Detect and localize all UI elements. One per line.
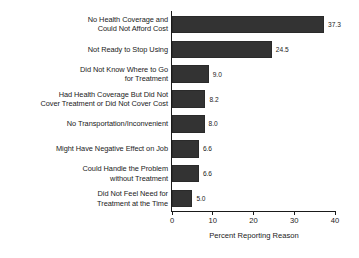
- x-tick-label: 20: [249, 216, 257, 225]
- bar-value-label: 24.5: [276, 46, 289, 53]
- bar-value-label: 6.6: [203, 145, 212, 152]
- x-tick-label: 30: [290, 216, 298, 225]
- x-tick: [212, 211, 213, 215]
- category-label: No Health Coverage and Could Not Afford …: [0, 15, 168, 33]
- bar: [172, 115, 205, 132]
- bar-value-label: 37.3: [328, 21, 341, 28]
- x-tick-label: 40: [331, 216, 339, 225]
- bar-value-label: 6.6: [203, 170, 212, 177]
- x-tick: [294, 211, 295, 215]
- category-label: Did Not Know Where to Go for Treatment: [0, 65, 168, 83]
- category-label: Did Not Feel Need for Treatment at the T…: [0, 189, 168, 207]
- x-tick: [172, 211, 173, 215]
- bar: [172, 65, 209, 82]
- category-label: Could Handle the Problem without Treatme…: [0, 164, 168, 182]
- bar: [172, 41, 272, 58]
- plot-area: 37.324.59.08.28.06.66.65.0: [172, 12, 335, 211]
- bar-value-label: 9.0: [213, 71, 222, 78]
- x-tick-label: 10: [209, 216, 217, 225]
- bar: [172, 90, 205, 107]
- bar-chart: No Health Coverage and Could Not Afford …: [0, 0, 359, 258]
- category-axis-labels: No Health Coverage and Could Not Afford …: [0, 12, 170, 211]
- category-label: Not Ready to Stop Using: [0, 45, 168, 54]
- bar: [172, 16, 324, 33]
- x-tick-label: 0: [170, 216, 174, 225]
- bar: [172, 190, 192, 207]
- bar-value-label: 8.2: [209, 96, 218, 103]
- category-label: Had Health Coverage But Did Not Cover Tr…: [0, 90, 168, 108]
- bar: [172, 140, 199, 157]
- bar-value-label: 5.0: [196, 195, 205, 202]
- x-tick: [253, 211, 254, 215]
- category-label: Might Have Negative Effect on Job: [0, 144, 168, 153]
- x-tick: [335, 211, 336, 215]
- category-label: No Transportation/Inconvenient: [0, 119, 168, 128]
- x-axis-title: Percent Reporting Reason: [172, 231, 336, 240]
- bar-value-label: 8.0: [209, 120, 218, 127]
- y-axis-line: [171, 11, 172, 212]
- bar: [172, 165, 199, 182]
